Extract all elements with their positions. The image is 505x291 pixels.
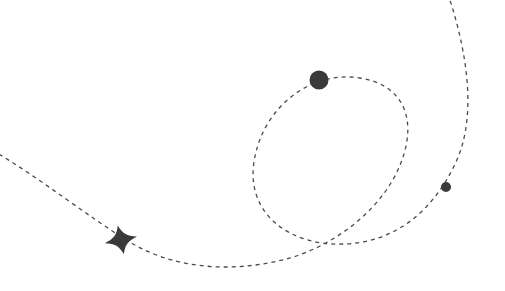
illustration-canvas: Dashed looping trajectory illustration [0,0,505,291]
canvas-background [0,0,505,291]
large-dot-marker [310,71,329,90]
small-dot-marker [441,182,451,192]
trajectory-svg: Dashed looping trajectory illustration [0,0,505,291]
